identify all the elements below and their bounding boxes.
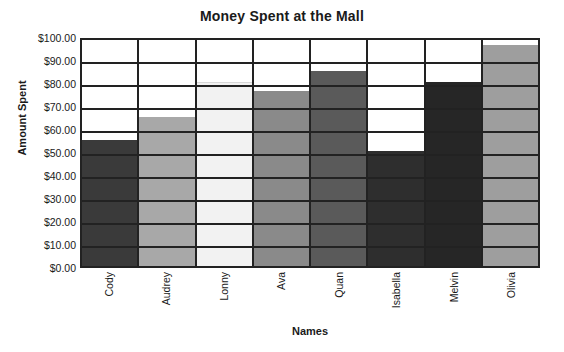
y-tick-label: $30.00 xyxy=(14,194,76,205)
y-tick-label: $100.00 xyxy=(14,33,76,44)
bar-olivia xyxy=(481,45,538,266)
bar-slot xyxy=(367,40,424,266)
x-tick-label: Olivia xyxy=(505,272,517,298)
bar-isabella xyxy=(367,151,424,266)
y-tick-label: $40.00 xyxy=(14,171,76,182)
x-tick-label: Ava xyxy=(275,272,287,290)
bar-slot xyxy=(82,40,139,266)
bar-slot xyxy=(196,40,253,266)
chart-title: Money Spent at the Mall xyxy=(0,8,564,24)
x-tick-label: Audrey xyxy=(160,272,172,305)
x-tick-slot: Ava xyxy=(253,270,311,328)
x-tick-slot: Isabella xyxy=(368,270,426,328)
x-tick-label: Cody xyxy=(103,272,115,297)
y-axis-tick-labels: $100.00$90.00$80.00$70.00$60.00$50.00$40… xyxy=(14,38,76,268)
y-tick-label: $10.00 xyxy=(14,240,76,251)
y-tick-label: $20.00 xyxy=(14,217,76,228)
y-tick-label: $80.00 xyxy=(14,79,76,90)
x-axis-title: Names xyxy=(80,325,540,337)
y-tick-label: $70.00 xyxy=(14,102,76,113)
x-tick-slot: Audrey xyxy=(138,270,196,328)
bar-ava xyxy=(253,91,310,266)
y-tick-label: $50.00 xyxy=(14,148,76,159)
bars-layer xyxy=(82,40,538,266)
x-tick-label: Quan xyxy=(333,272,345,298)
bar-melvin xyxy=(424,82,481,266)
x-tick-slot: Lonny xyxy=(195,270,253,328)
bar-audrey xyxy=(139,117,196,267)
plot-area xyxy=(80,38,540,268)
bar-cody xyxy=(82,140,139,267)
x-tick-slot: Melvin xyxy=(425,270,483,328)
x-tick-label: Isabella xyxy=(390,272,402,308)
y-tick-label: $60.00 xyxy=(14,125,76,136)
bar-slot xyxy=(310,40,367,266)
y-tick-label: $90.00 xyxy=(14,56,76,67)
x-tick-slot: Olivia xyxy=(483,270,541,328)
bar-chart-figure: Money Spent at the Mall Amount Spent $10… xyxy=(0,0,564,352)
bar-slot xyxy=(139,40,196,266)
bar-slot xyxy=(481,40,538,266)
bar-slot xyxy=(253,40,310,266)
bar-lonny xyxy=(196,82,253,266)
x-tick-label: Melvin xyxy=(448,272,460,302)
y-tick-label: $0.00 xyxy=(14,263,76,274)
x-tick-slot: Cody xyxy=(80,270,138,328)
bar-slot xyxy=(424,40,481,266)
bar-quan xyxy=(310,71,367,267)
x-tick-label: Lonny xyxy=(218,272,230,301)
x-axis-tick-labels: CodyAudreyLonnyAvaQuanIsabellaMelvinOliv… xyxy=(80,270,540,328)
x-tick-slot: Quan xyxy=(310,270,368,328)
